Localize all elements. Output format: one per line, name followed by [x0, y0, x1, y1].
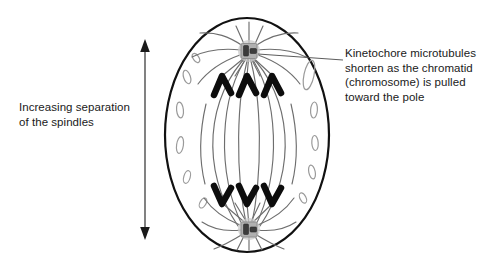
- centriole-vertical: [244, 224, 249, 235]
- top-centrosome: [238, 40, 260, 62]
- diagram-canvas: [0, 0, 496, 271]
- separation-arrow: [140, 39, 150, 240]
- increasing-separation-label: Increasing separation of the spindles: [19, 100, 141, 129]
- kinetochore-microtubules-label: Kinetochore microtubules shorten as the …: [345, 46, 495, 104]
- bottom-centrosome: [238, 218, 260, 240]
- centriole-horizontal: [250, 49, 257, 54]
- separation-arrow-head-up: [140, 39, 150, 52]
- centriole-vertical: [244, 46, 249, 57]
- separation-arrow-head-down: [140, 227, 150, 240]
- centriole-horizontal: [250, 227, 257, 232]
- anaphase-diagram: Increasing separation of the spindles Ki…: [0, 0, 496, 271]
